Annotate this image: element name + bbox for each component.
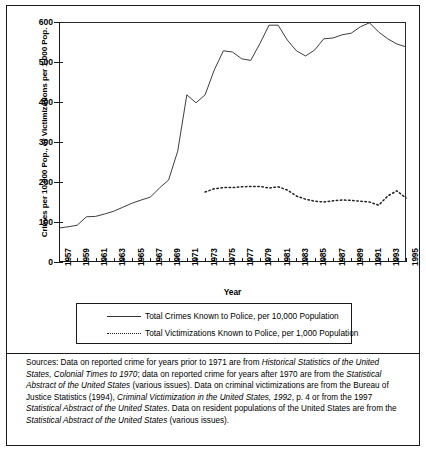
x-axis-tick — [223, 258, 224, 263]
x-axis-tick — [333, 258, 334, 263]
x-axis-tick — [132, 258, 133, 263]
x-axis-tick-label: 1969 — [172, 248, 182, 266]
x-axis-tick-label: 1957 — [63, 248, 73, 266]
x-axis-tick-label: 1987 — [337, 248, 347, 266]
x-axis-tick-label: 1993 — [391, 248, 401, 266]
y-axis-tick-label: 600 — [39, 17, 53, 27]
x-axis-tick — [77, 258, 78, 263]
chart-area: Crimes per 10,000 Pop., or Victimization… — [0, 0, 426, 300]
x-axis-tick-label: 1991 — [373, 248, 383, 266]
x-axis-tick — [59, 258, 60, 263]
y-axis-tick-inner — [59, 22, 63, 23]
solid-line-icon — [107, 311, 141, 321]
x-axis-tick-label: 1981 — [282, 248, 292, 266]
x-axis-tick-label: 1971 — [190, 248, 200, 266]
plot-area: 0100200300400500600195719591961196319651… — [59, 22, 406, 262]
y-axis-tick-inner — [59, 182, 63, 183]
source-title-5: Statistical Abstract of the United State… — [26, 416, 167, 425]
legend-label-crimes: Total Crimes Known to Police, per 10,000… — [145, 311, 339, 321]
source-text-1: Data on reported crime for years prior t… — [58, 358, 261, 367]
x-axis-tick — [406, 258, 407, 263]
figure-root: Crimes per 10,000 Pop., or Victimization… — [0, 0, 426, 452]
source-title-4: Statistical Abstract of the United State… — [26, 404, 167, 413]
x-axis-tick-label: 1961 — [99, 248, 109, 266]
x-axis-tick — [296, 258, 297, 263]
x-axis-tick-label: 1965 — [136, 248, 146, 266]
source-text-4: , p. 4 or from the 1997 — [292, 393, 373, 402]
y-axis-tick-label: 400 — [39, 97, 53, 107]
y-axis-tick-inner — [59, 142, 63, 143]
dotted-line-icon — [107, 328, 141, 338]
source-note: Sources: Data on reported crime for year… — [26, 357, 404, 427]
series-line-victimizations — [205, 186, 406, 205]
x-axis-tick-label: 1985 — [318, 248, 328, 266]
x-axis-tick — [242, 258, 243, 263]
x-axis-tick — [315, 258, 316, 263]
x-axis-tick — [388, 258, 389, 263]
x-axis-tick-label: 1973 — [209, 248, 219, 266]
legend-item-crimes: Total Crimes Known to Police, per 10,000… — [77, 307, 351, 325]
y-axis-tick-label: 500 — [39, 57, 53, 67]
y-axis-tick-inner — [59, 102, 63, 103]
x-axis-tick-label: 1983 — [300, 248, 310, 266]
y-axis-tick-label: 200 — [39, 177, 53, 187]
x-axis-tick-label: 1995 — [410, 248, 420, 266]
y-axis-tick-inner — [59, 62, 63, 63]
source-text-5: . Data on resident populations of the Un… — [167, 404, 396, 413]
x-axis-tick-label: 1977 — [245, 248, 255, 266]
x-axis-tick — [351, 258, 352, 263]
y-axis-tick-label: 0 — [48, 257, 53, 267]
y-axis-tick-inner — [59, 222, 63, 223]
source-prefix: Sources: — [26, 358, 58, 367]
source-text-6: (various issues). — [167, 416, 229, 425]
x-axis-tick — [169, 258, 170, 263]
source-text-2: ; data on reported crime for years after… — [137, 370, 346, 379]
y-axis-tick-label: 100 — [39, 217, 53, 227]
x-axis-tick-label: 1975 — [227, 248, 237, 266]
x-axis-title: Year — [59, 287, 406, 297]
legend-label-victimizations: Total Victimizations Known to Police, pe… — [145, 328, 358, 338]
source-divider — [6, 353, 420, 354]
x-axis-tick-label: 1967 — [154, 248, 164, 266]
x-axis-tick — [369, 258, 370, 263]
x-axis-tick — [260, 258, 261, 263]
x-axis-tick — [150, 258, 151, 263]
x-axis-tick-label: 1963 — [117, 248, 127, 266]
legend-item-victimizations: Total Victimizations Known to Police, pe… — [77, 324, 351, 342]
x-axis-tick-label: 1989 — [355, 248, 365, 266]
x-axis-tick — [187, 258, 188, 263]
series-layer — [59, 22, 406, 262]
x-axis-tick — [114, 258, 115, 263]
x-axis-tick-label: 1959 — [81, 248, 91, 266]
chart-legend: Total Crimes Known to Police, per 10,000… — [76, 303, 352, 344]
series-line-crimes — [59, 23, 406, 228]
x-axis-tick — [96, 258, 97, 263]
source-title-3: Criminal Victimization in the United Sta… — [117, 393, 292, 402]
y-axis-tick-label: 300 — [39, 137, 53, 147]
x-axis-tick-label: 1979 — [263, 248, 273, 266]
x-axis-tick — [205, 258, 206, 263]
x-axis-tick — [278, 258, 279, 263]
